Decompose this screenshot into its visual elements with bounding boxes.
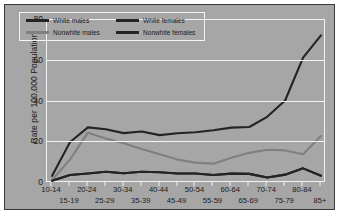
x-axis-tick-label: 35-39 — [131, 196, 150, 205]
y-axis-tick-label: 0 — [21, 177, 43, 187]
series-line — [52, 35, 321, 176]
x-axis-tick-label: 10-14 — [41, 185, 60, 194]
x-axis-tick-label: 30-34 — [113, 185, 132, 194]
legend-swatch-icon — [26, 19, 49, 22]
x-axis-tick-label: 85+ — [314, 196, 327, 205]
x-axis-tick-labels: 10-1415-1920-2425-2930-3435-3940-4445-49… — [46, 182, 325, 210]
gridline — [47, 141, 324, 142]
x-axis-tick-mark — [176, 182, 177, 186]
x-axis-tick-label: 55-59 — [203, 196, 222, 205]
legend-item-label: White females — [143, 17, 185, 24]
x-axis-tick-mark — [284, 182, 285, 186]
plot-area — [46, 19, 325, 182]
legend-swatch-icon — [26, 31, 49, 34]
legend-swatch-icon — [116, 19, 139, 22]
gridline — [47, 60, 324, 61]
x-axis-tick-label: 40-44 — [149, 185, 168, 194]
x-axis-tick-label: 25-29 — [95, 196, 114, 205]
legend-item: Nonwhite males — [26, 29, 100, 36]
chart-legend: White malesWhite femalesNonwhite malesNo… — [19, 12, 205, 41]
legend-item: White females — [116, 17, 185, 24]
x-axis-tick-mark — [248, 182, 249, 186]
x-axis-tick-label: 75-79 — [274, 196, 293, 205]
legend-item-label: Nonwhite females — [143, 29, 195, 36]
x-axis-tick-mark — [104, 182, 105, 186]
gridline — [47, 101, 324, 102]
x-axis-tick-mark — [320, 182, 321, 186]
x-axis-tick-label: 45-49 — [167, 196, 186, 205]
chart-figure: Rate per 100,000 Population 020406080 Wh… — [0, 0, 340, 215]
x-axis-tick-label: 80-84 — [292, 185, 311, 194]
x-axis-tick-label: 15-19 — [59, 196, 78, 205]
legend-item-label: White males — [53, 17, 89, 24]
chart-canvas: Rate per 100,000 Population 020406080 Wh… — [4, 4, 335, 210]
y-axis-tick-label: 40 — [21, 96, 43, 106]
x-axis-tick-mark — [68, 182, 69, 186]
x-axis-tick-label: 65-69 — [239, 196, 258, 205]
x-axis-tick-label: 50-54 — [185, 185, 204, 194]
legend-item-label: Nonwhite males — [53, 29, 100, 36]
x-axis-tick-label: 60-64 — [221, 185, 240, 194]
y-axis-tick-label: 20 — [21, 136, 43, 146]
legend-swatch-icon — [116, 31, 139, 34]
series-line — [52, 168, 321, 180]
x-axis-tick-mark — [140, 182, 141, 186]
x-axis-tick-label: 20-24 — [77, 185, 96, 194]
x-axis-tick-label: 70-74 — [256, 185, 275, 194]
x-axis-tick-mark — [212, 182, 213, 186]
legend-item: White males — [26, 17, 89, 24]
legend-item: Nonwhite females — [116, 29, 195, 36]
y-axis-tick-label: 60 — [21, 55, 43, 65]
